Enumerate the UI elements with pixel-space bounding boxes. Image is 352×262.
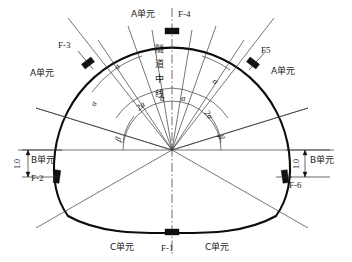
label-centerline-text: 隧 道 中 线 <box>155 43 164 99</box>
dim-left-arrow-bottom <box>26 172 30 177</box>
blast-hole-marker-group <box>53 28 289 235</box>
marker-f5 <box>246 57 259 69</box>
label-angle-right-inner-alpha: α <box>181 93 186 103</box>
label-dimension-right: 1.0 <box>292 159 301 169</box>
label-unit-a-left: A单元 <box>30 67 54 78</box>
label-angle-left-inner-alpha: α <box>160 93 165 103</box>
centerline-char-1: 道 <box>155 58 164 69</box>
label-unit-a-right: A单元 <box>271 65 295 76</box>
label-hole-f1: F-1 <box>161 243 174 253</box>
label-hole-f3: F-3 <box>58 40 71 50</box>
label-hole-f4: F-4 <box>178 9 191 19</box>
diagram-canvas: A单元 F-4 隧 道 中 线 F-3 A单元 F5 A单元 1.0 B单元 F… <box>0 0 352 262</box>
centerline-char-0: 隧 <box>155 43 164 54</box>
label-angle-left-outer-alpha: α <box>88 99 99 108</box>
marker-f6 <box>281 170 289 184</box>
label-unit-b-right: B单元 <box>310 154 334 165</box>
label-unit-b-left: B单元 <box>31 154 55 165</box>
label-angle-right-outer-alpha: α <box>211 76 221 87</box>
radial-left-haunch <box>68 18 172 150</box>
label-unit-c-right: C单元 <box>205 241 229 252</box>
dim-left-arrow-top <box>26 150 30 155</box>
label-angle-right-two-alpha: 2α <box>202 108 216 121</box>
marker-f1 <box>165 229 179 235</box>
label-unit-a-top: A单元 <box>131 8 155 19</box>
radial-left-inner <box>128 26 172 150</box>
tunnel-cross-section-diagram: A单元 F-4 隧 道 中 线 F-3 A单元 F5 A单元 1.0 B单元 F… <box>0 0 352 262</box>
dim-right-arrow-bottom <box>303 172 307 177</box>
angle-arc-left-beta <box>123 116 134 143</box>
centerline-char-2: 中 <box>155 73 164 84</box>
radial-right-haunch <box>172 18 274 150</box>
dim-right-arrow-top <box>303 150 307 155</box>
label-unit-c-left: C单元 <box>110 241 134 252</box>
label-angle-right-beta: β <box>216 132 227 141</box>
label-angle-left-mid-alpha: α <box>111 61 122 71</box>
label-hole-f5: F5 <box>261 45 271 55</box>
right-sidewall <box>276 152 290 216</box>
angle-arc-left-outer <box>92 70 114 92</box>
left-sidewall <box>54 152 68 216</box>
label-dimension-left: 1.0 <box>13 159 22 169</box>
marker-f4 <box>165 28 179 34</box>
label-angle-left-beta: β <box>112 135 123 144</box>
label-hole-f6: F-6 <box>289 180 302 190</box>
label-hole-f2: F-2 <box>31 173 44 183</box>
radial-right-inner <box>172 26 216 150</box>
